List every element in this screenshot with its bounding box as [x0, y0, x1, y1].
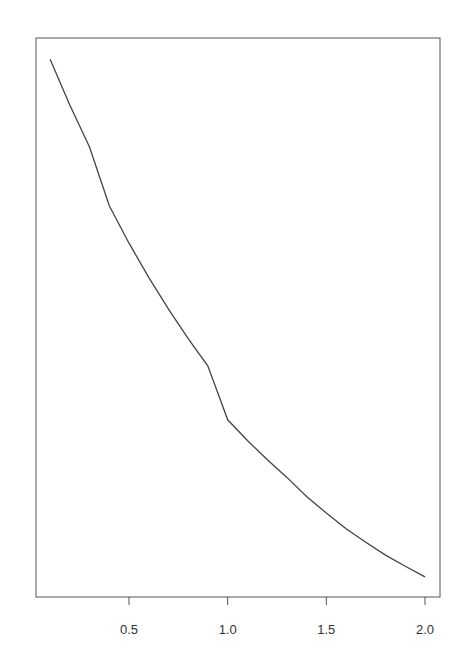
x-tick-label: 1.5 — [317, 622, 335, 637]
x-axis: 0.51.01.52.0 — [120, 597, 434, 637]
x-tick-label: 2.0 — [416, 622, 434, 637]
plot-frame — [36, 38, 440, 597]
x-tick-label: 0.5 — [120, 622, 138, 637]
line-chart: 0.51.01.52.0 — [0, 0, 459, 662]
data-line — [50, 59, 425, 577]
x-tick-label: 1.0 — [219, 622, 237, 637]
